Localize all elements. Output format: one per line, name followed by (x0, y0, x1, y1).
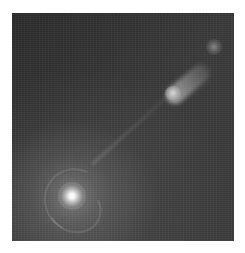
astronomical-image (12, 13, 234, 241)
jet-knot-bright-spot (165, 86, 181, 100)
galaxy-nucleus (58, 182, 86, 210)
jet-terminal-knot (206, 39, 222, 55)
